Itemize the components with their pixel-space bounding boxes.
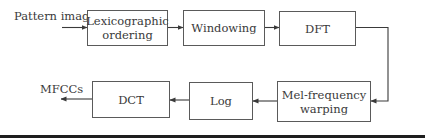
node-label: Windowing [191, 21, 256, 35]
node-label-line1: Mel-frequency [282, 88, 367, 102]
node-label-line2: ordering [86, 28, 169, 42]
input-label: Pattern image [14, 9, 96, 23]
node-mel-frequency-warping: Mel-frequency warping [277, 81, 371, 122]
node-label-line2: warping [282, 102, 367, 116]
node-lexicographic-ordering: Lexicographic ordering [87, 10, 168, 46]
mfcc-pipeline-diagram: Pattern image MFCCs Lexicographic orderi… [0, 0, 432, 140]
node-label: DCT [118, 93, 144, 107]
node-label-line1: Lexicographic [86, 14, 169, 28]
output-label: MFCCs [40, 82, 83, 96]
node-windowing: Windowing [183, 10, 265, 46]
node-log: Log [189, 82, 253, 120]
bottom-rule-divider [0, 135, 425, 138]
node-dct: DCT [92, 81, 170, 118]
node-label: Log [210, 94, 232, 108]
node-label: DFT [305, 22, 330, 36]
node-dft: DFT [279, 11, 356, 46]
